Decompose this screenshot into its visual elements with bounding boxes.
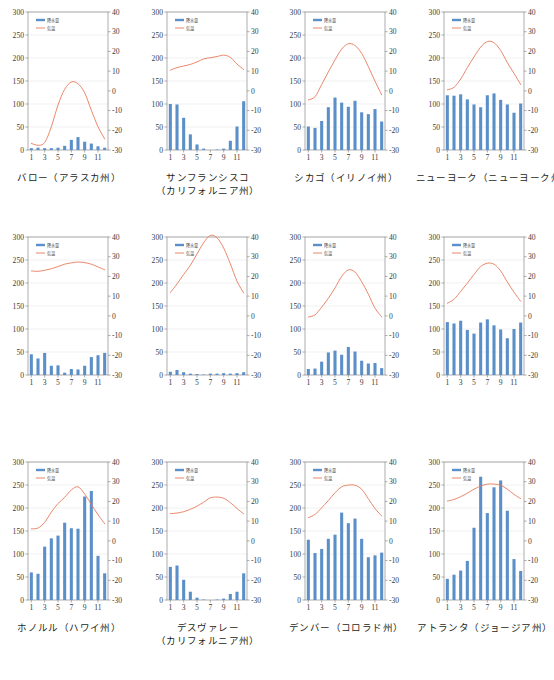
- precip-bar: [103, 148, 106, 150]
- right-tick-label: -20: [112, 126, 122, 135]
- precip-bar: [242, 573, 245, 600]
- left-tick-label: 50: [16, 123, 24, 132]
- left-tick-label: 250: [290, 31, 302, 40]
- precip-bar: [30, 572, 33, 600]
- x-tick-label: 1: [168, 603, 172, 612]
- precip-bar: [50, 366, 53, 375]
- x-tick-label: 1: [445, 153, 449, 162]
- chart-cell-tokyo: 300250200150100500403020100-10-20-301357…: [0, 450, 139, 680]
- legend-temp-label: 気温: [463, 475, 472, 482]
- x-tick-label: 1: [445, 603, 449, 612]
- left-tick-label: 300: [151, 8, 163, 17]
- x-tick-label: 11: [371, 378, 379, 387]
- right-tick-label: 10: [112, 517, 120, 526]
- precip-bar: [175, 370, 178, 375]
- precip-bar: [505, 511, 508, 600]
- climograph-miami: 300250200150100500403020100-10-20-301357…: [416, 450, 554, 622]
- right-tick-label: 20: [528, 272, 536, 281]
- right-tick-label: -30: [528, 146, 538, 155]
- x-tick-label: 3: [458, 378, 462, 387]
- precip-bar: [70, 369, 73, 375]
- left-tick-label: 100: [151, 325, 163, 334]
- chart-cell-atlanta: 300250200150100500403020100-10-20-301357…: [416, 225, 554, 450]
- x-tick-label: 3: [320, 603, 324, 612]
- precip-bar: [103, 573, 106, 600]
- climograph-denver: 300250200150100500403020100-10-20-301357…: [277, 225, 416, 397]
- climograph-death-valley: 300250200150100500403020100-10-20-301357…: [139, 225, 278, 397]
- left-tick-label: 150: [13, 302, 25, 311]
- left-tick-label: 200: [290, 504, 302, 513]
- left-tick-label: 200: [151, 279, 163, 288]
- left-tick-label: 100: [290, 325, 302, 334]
- right-tick-label: 40: [389, 458, 397, 467]
- left-tick-label: 150: [428, 77, 440, 86]
- x-tick-label: 5: [195, 153, 199, 162]
- right-tick-label: 0: [112, 312, 116, 321]
- legend-temp-label: 気温: [47, 250, 56, 257]
- climograph-honolulu: 300250200150100500403020100-10-20-301357…: [0, 225, 139, 397]
- right-tick-label: -20: [389, 576, 399, 585]
- left-tick-label: 50: [16, 348, 24, 357]
- left-tick-label: 200: [428, 279, 440, 288]
- left-tick-label: 50: [16, 573, 24, 582]
- left-tick-label: 150: [428, 302, 440, 311]
- right-tick-label: 30: [389, 477, 397, 486]
- legend-precip-label: 降水量: [186, 17, 198, 24]
- precip-bar: [459, 321, 462, 375]
- precip-bar: [499, 100, 502, 150]
- left-tick-label: 300: [151, 233, 163, 242]
- x-tick-label: 1: [29, 378, 33, 387]
- left-tick-label: 0: [436, 146, 440, 155]
- right-tick-label: 40: [389, 8, 397, 17]
- x-tick-label: 11: [510, 378, 518, 387]
- precip-bar: [367, 114, 370, 150]
- precip-bar: [63, 146, 66, 150]
- left-tick-label: 150: [428, 527, 440, 536]
- left-tick-label: 300: [290, 233, 302, 242]
- x-tick-label: 11: [233, 153, 241, 162]
- left-tick-label: 150: [151, 77, 163, 86]
- left-tick-label: 200: [290, 279, 302, 288]
- left-tick-label: 250: [428, 31, 440, 40]
- precip-bar: [56, 536, 59, 600]
- precip-bar: [313, 369, 316, 375]
- precip-bar: [347, 523, 350, 600]
- x-tick-label: 3: [181, 603, 185, 612]
- climograph-chicago: 300250200150100500403020100-10-20-301357…: [277, 0, 416, 172]
- precip-bar: [168, 104, 171, 150]
- chart-area: 300250200150100500403020100-10-20-301357…: [416, 225, 554, 397]
- precip-bar: [96, 146, 99, 150]
- left-tick-label: 150: [290, 527, 302, 536]
- precip-bar: [43, 353, 46, 375]
- precip-bar: [90, 491, 93, 600]
- x-tick-label: 9: [498, 603, 502, 612]
- left-tick-label: 250: [290, 481, 302, 490]
- precip-bar: [512, 329, 515, 375]
- precip-bar: [320, 362, 323, 375]
- left-tick-label: 0: [20, 146, 24, 155]
- left-tick-label: 200: [428, 54, 440, 63]
- x-tick-label: 9: [360, 153, 364, 162]
- precip-bar: [452, 575, 455, 600]
- precip-bar: [96, 355, 99, 375]
- right-tick-label: -30: [389, 596, 399, 605]
- left-tick-label: 0: [297, 371, 301, 380]
- left-tick-label: 0: [436, 596, 440, 605]
- precip-bar: [512, 559, 515, 600]
- precip-bar: [313, 128, 316, 150]
- left-tick-label: 200: [13, 279, 25, 288]
- left-tick-label: 250: [151, 31, 163, 40]
- left-tick-label: 0: [297, 596, 301, 605]
- precip-bar: [228, 141, 231, 150]
- right-tick-label: 30: [251, 252, 259, 261]
- precip-bar: [188, 592, 191, 600]
- x-tick-label: 11: [233, 378, 241, 387]
- right-tick-label: 10: [389, 67, 397, 76]
- right-tick-label: 10: [251, 517, 259, 526]
- left-tick-label: 100: [290, 100, 302, 109]
- precip-bar: [459, 94, 462, 150]
- precip-bar: [367, 557, 370, 600]
- precip-bar: [195, 374, 198, 375]
- right-tick-label: -10: [251, 556, 261, 565]
- chart-cell-miami: 300250200150100500403020100-10-20-301357…: [416, 450, 554, 680]
